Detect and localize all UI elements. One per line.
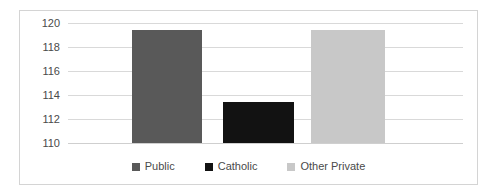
legend-swatch-icon	[132, 163, 140, 171]
bars-layer	[68, 23, 463, 143]
legend-swatch-icon	[287, 163, 295, 171]
y-tick-label: 110	[42, 138, 60, 149]
legend-item-label: Public	[145, 161, 175, 172]
legend-swatch-icon	[205, 163, 213, 171]
chart-frame: 120 118 116 114 112 110 Public Catholic	[19, 10, 478, 185]
y-tick-label: 114	[42, 90, 60, 101]
legend-item-label: Other Private	[300, 161, 365, 172]
axis-baseline	[68, 143, 463, 144]
bar-other-private[interactable]	[311, 30, 385, 143]
legend-item-catholic[interactable]: Catholic	[205, 161, 258, 172]
plot-area	[68, 23, 463, 143]
legend-item-label: Catholic	[218, 161, 258, 172]
y-tick-label: 120	[42, 18, 60, 29]
y-tick-label: 112	[42, 114, 60, 125]
bar-public[interactable]	[132, 30, 202, 143]
legend: Public Catholic Other Private	[20, 161, 477, 172]
legend-item-other-private[interactable]: Other Private	[287, 161, 365, 172]
y-tick-label: 118	[42, 42, 60, 53]
bar-catholic[interactable]	[223, 102, 294, 143]
legend-item-public[interactable]: Public	[132, 161, 175, 172]
y-axis: 120 118 116 114 112 110	[20, 23, 64, 143]
y-tick-label: 116	[42, 66, 60, 77]
